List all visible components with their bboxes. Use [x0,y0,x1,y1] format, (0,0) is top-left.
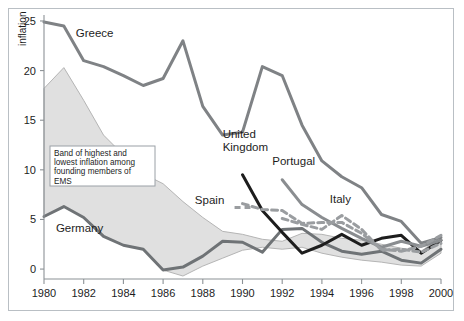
y-tick-label-0: 0 [30,263,36,275]
series-label-united-kingdom-line2: Kingdom [223,141,268,153]
x-tick-label-1990: 1990 [230,287,254,299]
band-note-line-2: lowest inflation among [54,158,135,167]
y-tick-label-20: 20 [24,65,36,77]
x-tick-label-1980: 1980 [32,287,56,299]
band-note-line-3: founding members of [54,167,132,176]
x-tick-label-1992: 1992 [270,287,294,299]
series-label-spain: Spain [195,194,224,206]
y-tick-label-5: 5 [30,213,36,225]
series-label-portugal: Portugal [272,155,315,167]
x-tick-label-1986: 1986 [151,287,175,299]
series-label-germany: Germany [56,222,104,234]
inflation-line-chart: 0510152025198019821984198619881990199219… [0,0,464,321]
y-tick-label-15: 15 [24,114,36,126]
x-tick-label-1994: 1994 [310,287,334,299]
x-tick-label-1996: 1996 [349,287,373,299]
x-tick-label-2000: 2000 [429,287,453,299]
x-tick-label-1984: 1984 [111,287,135,299]
band-note-line-1: Band of highest and [54,149,127,158]
x-tick-label-1982: 1982 [71,287,95,299]
y-tick-label-10: 10 [24,164,36,176]
x-tick-label-1998: 1998 [389,287,413,299]
x-tick-label-1988: 1988 [191,287,215,299]
y-axis-title: inflation [17,12,28,46]
series-label-united-kingdom: United [223,128,256,140]
series-label-greece: Greece [76,27,114,39]
chart-figure: 0510152025198019821984198619881990199219… [0,0,464,321]
band-note-line-4: EMS [54,177,72,186]
series-label-italy: Italy [330,193,351,205]
